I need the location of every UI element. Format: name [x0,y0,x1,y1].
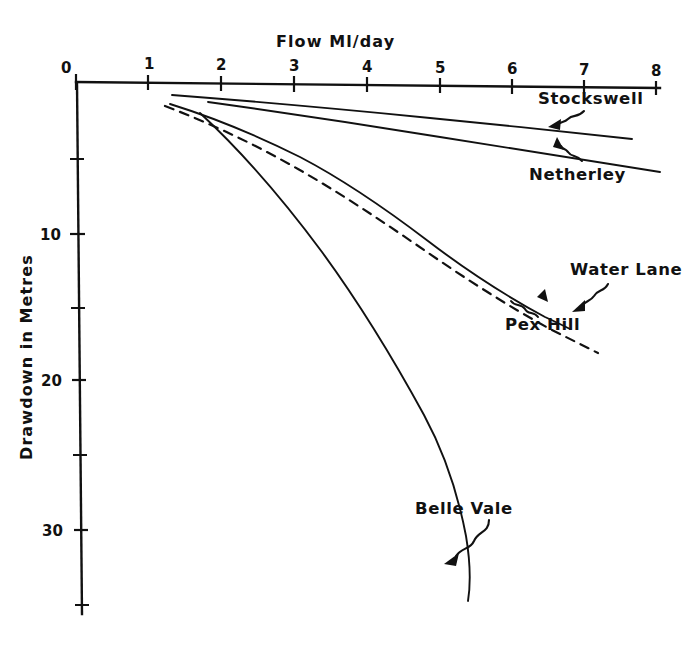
series-curve-netherley [208,102,660,172]
y-axis-title: Drawdown in Metres [17,254,36,460]
x-tick-label-8: 8 [651,62,661,80]
y-axis-line [77,83,82,614]
y-tick-label-30: 30 [42,522,63,540]
drawdown-vs-flow-figure: 0 1 2 3 4 5 6 7 8 10 20 30 Flow Ml/d [0,0,694,652]
leader-water-lane [582,284,608,306]
x-tick-label-5: 5 [435,59,445,77]
series-curve-belle-vale [200,113,470,601]
x-tick-labels: 0 1 2 3 4 5 6 7 8 [61,55,661,80]
x-tick-label-6: 6 [507,60,517,78]
y-tick-label-20: 20 [41,372,62,390]
leader-stockswell [557,111,584,125]
series-label-pex-hill: Pex Hill [505,315,580,334]
x-tick-label-4: 4 [362,58,372,76]
x-tick-label-2: 2 [216,56,226,74]
series-label-water-lane: Water Lane [570,260,682,279]
x-tick-label-0: 0 [61,59,71,77]
x-tick-label-7: 7 [579,61,589,79]
arrowhead-netherley [553,137,564,150]
y-tick-labels: 10 20 30 [40,226,63,540]
x-axis-title: Flow Ml/day [276,32,395,51]
x-tick-label-3: 3 [289,57,299,75]
axis-group [76,82,660,614]
series-label-belle-vale: Belle Vale [415,499,513,518]
series-label-stockswell: Stockswell [538,89,643,108]
arrowhead-water-lane [572,300,585,312]
arrowhead-stockswell [548,119,561,130]
y-tick-label-10: 10 [40,226,61,244]
arrowhead-pex-hill [537,289,548,302]
arrowhead-belle-vale [444,553,459,566]
series-curve-water-lane [170,104,570,329]
leader-belle-vale [456,520,489,556]
chart-canvas: 0 1 2 3 4 5 6 7 8 10 20 30 Flow Ml/d [0,0,694,652]
series-label-netherley: Netherley [529,165,626,184]
x-tick-label-1: 1 [144,55,154,73]
